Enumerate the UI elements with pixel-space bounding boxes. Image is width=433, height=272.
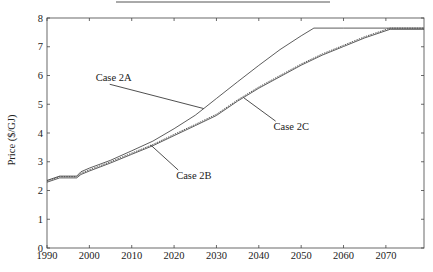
annotation-label: Case 2B (176, 170, 211, 181)
annotation-label: Case 2C (274, 121, 309, 132)
x-tick-label: 2010 (121, 250, 142, 261)
series-line-case-2c (47, 28, 424, 181)
annotations: Case 2ACase 2BCase 2C (96, 72, 309, 181)
series-layer (47, 28, 424, 182)
annotation-label: Case 2A (96, 72, 132, 83)
annotation-leader-line (244, 98, 276, 121)
y-tick-label: 6 (38, 70, 43, 81)
x-tick-label: 2070 (375, 250, 396, 261)
x-tick-label: 2000 (79, 250, 100, 261)
series-line-case-2a (47, 28, 424, 180)
y-tick-label: 7 (38, 41, 43, 52)
x-tick-label: 2050 (291, 250, 312, 261)
price-line-chart: 199020002010202020302040205020602070 012… (0, 0, 433, 272)
y-tick-label: 3 (38, 156, 43, 167)
x-tick-label: 2040 (248, 250, 269, 261)
y-tick-label: 4 (38, 128, 44, 139)
y-tick-label: 2 (38, 185, 43, 196)
x-tick-label: 2060 (333, 250, 354, 261)
x-axis: 199020002010202020302040205020602070 (37, 18, 397, 261)
series-line-case-2b (47, 29, 424, 182)
annotation-leader-line (110, 84, 204, 108)
y-tick-label: 0 (38, 243, 43, 254)
x-tick-label: 2030 (206, 250, 227, 261)
y-tick-label: 8 (38, 13, 43, 24)
y-tick-label: 5 (38, 99, 43, 110)
annotation-leader-line (151, 145, 178, 170)
y-axis: 012345678 (38, 13, 424, 254)
y-tick-label: 1 (38, 214, 43, 225)
y-axis-title: Price ($/GJ) (6, 114, 18, 166)
x-tick-label: 2020 (164, 250, 185, 261)
plot-frame (47, 18, 424, 248)
